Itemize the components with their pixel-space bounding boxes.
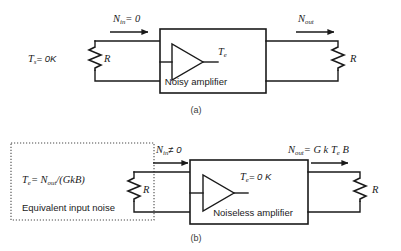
panel-a-output-noise-label: Nout [297,13,315,25]
panel-a-source-temp-label: Ts= 0K [28,53,57,65]
panel-b-amp-name: Noiseless amplifier [213,207,293,218]
panel-b-equivalent-noise-description: Equivalent input noise [22,202,115,213]
panel-a-right-circuit [266,41,338,81]
noise-figure-diagram: Nin= 0 Nout R Ts= 0K [0,0,401,251]
panel-b-output-noise-label: Nout= G k Te B [287,144,349,156]
panel-a-caption: (a) [191,105,202,115]
panel-b-left-resistor [128,178,140,202]
panel-b-right-resistor-label: R [371,184,379,195]
panel-a-right-resistor [332,47,344,71]
panel-a-right-resistor-label: R [349,53,357,64]
panel-b-right-circuit [308,172,360,212]
panel-a: Nin= 0 Nout R Ts= 0K [28,13,357,115]
panel-b-right-resistor [354,178,366,202]
figure-root: Nin= 0 Nout R Ts= 0K [0,0,401,251]
panel-a-left-resistor [89,47,101,71]
panel-a-input-noise-label: Nin= 0 [112,13,141,25]
panel-b-equivalent-noise-formula: Te= Nout/(GkB) [22,174,85,186]
panel-b-left-resistor-label: R [142,184,150,195]
panel-b-input-noise-label: Nin≠ 0 [155,144,182,156]
panel-a-left-resistor-label: R [103,53,111,64]
panel-b: Te= Nout/(GkB) Equivalent input noise Ni… [11,143,379,243]
panel-a-amp-name: Noisy amplifier [165,76,227,87]
panel-b-caption: (b) [191,233,202,243]
panel-b-amp-temp-label: Te= 0 K [240,171,272,183]
